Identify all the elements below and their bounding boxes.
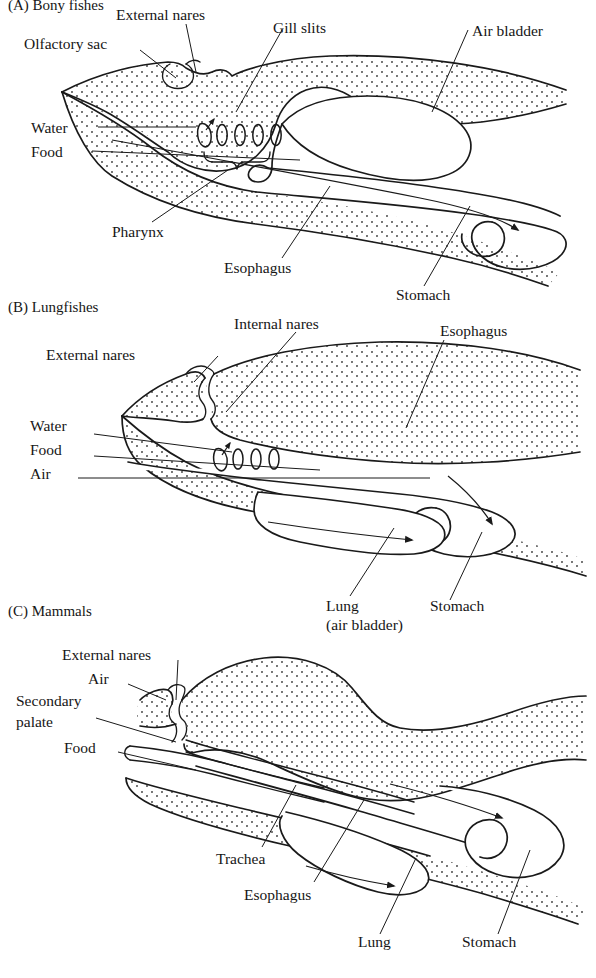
label-b-esophagus: Esophagus <box>440 322 507 339</box>
label-c-external-nares: External nares <box>62 646 151 663</box>
label-a-water: Water <box>31 119 68 136</box>
label-b-stomach: Stomach <box>430 597 484 614</box>
label-c-trachea: Trachea <box>216 850 265 867</box>
label-a-gill-slits: Gill slits <box>273 19 326 36</box>
label-b-external-nares: External nares <box>46 346 135 363</box>
label-c-stomach: Stomach <box>462 933 516 950</box>
label-a-air-bladder: Air bladder <box>472 22 544 39</box>
label-a-olfactory-sac: Olfactory sac <box>24 35 107 52</box>
label-c-secondary-line1: Secondary <box>16 692 82 709</box>
label-c-secondary-line2: palate <box>16 713 53 730</box>
panel-a-title: (A) Bony fishes <box>8 0 104 14</box>
panel-b-title: (B) Lungfishes <box>8 299 99 316</box>
panel-c-title: (C) Mammals <box>8 603 92 620</box>
label-b-lung-line1: Lung <box>326 597 359 614</box>
label-c-esophagus: Esophagus <box>244 886 311 903</box>
label-c-lung: Lung <box>358 933 391 950</box>
label-a-pharynx: Pharynx <box>112 223 164 240</box>
label-a-food: Food <box>31 143 63 160</box>
figure-respiratory-digestive-pathways: (A) Bony fishes <box>0 0 596 978</box>
label-b-internal-nares: Internal nares <box>234 315 319 332</box>
label-b-water: Water <box>30 417 67 434</box>
label-a-stomach: Stomach <box>396 286 450 303</box>
label-c-food: Food <box>64 739 96 756</box>
label-b-food: Food <box>30 441 62 458</box>
label-b-air: Air <box>30 465 52 482</box>
label-a-external-nares: External nares <box>116 6 205 23</box>
label-c-air: Air <box>88 670 110 687</box>
diagram-canvas: (A) Bony fishes <box>0 0 596 978</box>
label-b-lung-line2: (air bladder) <box>326 616 403 634</box>
label-a-esophagus: Esophagus <box>224 259 291 276</box>
